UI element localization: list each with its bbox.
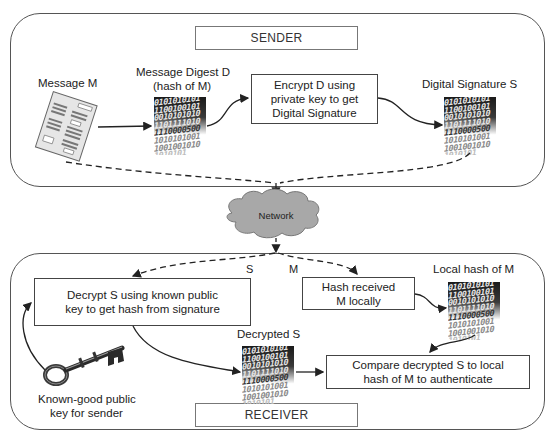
cloud-icon: Network — [227, 189, 319, 238]
key-icon — [45, 347, 124, 384]
edge-label-m: M — [289, 263, 298, 275]
document-icon — [35, 92, 97, 161]
network-label: Network — [259, 210, 294, 221]
diagram-connectors: Network S M — [0, 0, 555, 438]
edge-label-s: S — [246, 263, 253, 275]
